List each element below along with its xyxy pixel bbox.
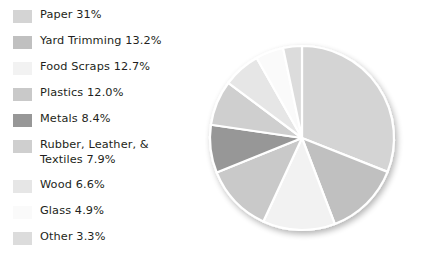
- legend-label-other: Other 3.3%: [40, 230, 106, 245]
- legend-label-plastics: Plastics 12.0%: [40, 86, 123, 101]
- legend-swatch-paper: [13, 10, 32, 23]
- legend-item-food-scraps: Food Scraps 12.7%: [13, 60, 203, 75]
- legend-swatch-plastics: [13, 88, 32, 101]
- legend-label-yard-trimming: Yard Trimming 13.2%: [40, 34, 162, 49]
- legend-label-paper: Paper 31%: [40, 8, 102, 23]
- legend-item-other: Other 3.3%: [13, 230, 203, 245]
- legend-swatch-food-scraps: [13, 62, 32, 75]
- legend-label-rubber-leather-textiles: Rubber, Leather, & Textiles 7.9%: [40, 138, 149, 167]
- legend-swatch-rubber-leather-textiles: [13, 140, 32, 153]
- legend-swatch-metals: [13, 114, 32, 127]
- legend-item-wood: Wood 6.6%: [13, 178, 203, 193]
- legend-label-food-scraps: Food Scraps 12.7%: [40, 60, 150, 75]
- legend-swatch-wood: [13, 180, 32, 193]
- legend-swatch-other: [13, 232, 32, 245]
- legend-label-glass: Glass 4.9%: [40, 204, 104, 219]
- chart-legend: Paper 31% Yard Trimming 13.2% Food Scrap…: [13, 8, 203, 256]
- pie-slices: [210, 46, 394, 230]
- legend-item-paper: Paper 31%: [13, 8, 203, 23]
- pie-chart-svg: [205, 38, 405, 244]
- legend-label-metals: Metals 8.4%: [40, 112, 111, 127]
- pie-chart-figure: Paper 31% Yard Trimming 13.2% Food Scrap…: [0, 0, 421, 273]
- legend-swatch-glass: [13, 206, 32, 219]
- legend-swatch-yard-trimming: [13, 36, 32, 49]
- pie-chart: [205, 38, 405, 244]
- legend-item-rubber-leather-textiles: Rubber, Leather, & Textiles 7.9%: [13, 138, 203, 167]
- legend-label-wood: Wood 6.6%: [40, 178, 105, 193]
- legend-item-plastics: Plastics 12.0%: [13, 86, 203, 101]
- legend-item-metals: Metals 8.4%: [13, 112, 203, 127]
- legend-item-yard-trimming: Yard Trimming 13.2%: [13, 34, 203, 49]
- legend-item-glass: Glass 4.9%: [13, 204, 203, 219]
